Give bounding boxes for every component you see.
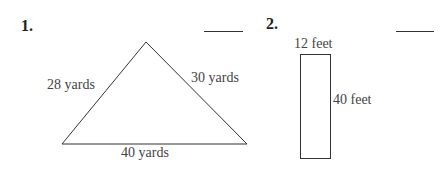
problem-2-answer-blank[interactable]: [396, 31, 434, 32]
triangle-right-side-label: 30 yards: [191, 70, 239, 86]
problem-1-number: 1.: [21, 17, 33, 35]
problem-2-number: 2.: [266, 15, 278, 33]
triangle-left-side-label: 28 yards: [47, 77, 95, 93]
rectangle-figure: [301, 55, 331, 159]
triangle-figure: [62, 42, 247, 144]
problem-1-answer-blank[interactable]: [204, 31, 243, 32]
triangle-base-label: 40 yards: [121, 145, 169, 161]
rectangle-length-label: 40 feet: [333, 92, 371, 108]
rectangle-width-label: 12 feet: [294, 36, 332, 52]
